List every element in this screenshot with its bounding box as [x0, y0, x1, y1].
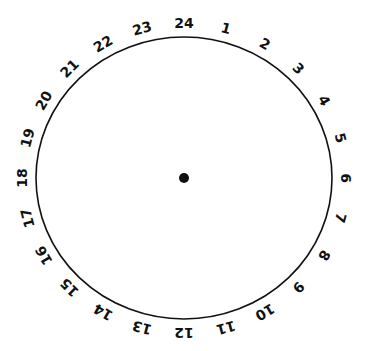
hour-label-14: 14 — [90, 300, 115, 324]
hour-label-19: 19 — [17, 126, 37, 149]
center-dot — [179, 173, 189, 183]
hour-label-18: 18 — [14, 168, 30, 187]
hour-label-9: 9 — [289, 278, 307, 296]
hour-label-3: 3 — [289, 59, 307, 77]
hour-label-15: 15 — [57, 275, 82, 300]
hour-label-2: 2 — [257, 34, 273, 53]
hour-label-5: 5 — [331, 131, 349, 145]
hour-label-23: 23 — [131, 18, 154, 38]
clock-face-diagram: 241234567891011121314151617181920212223 — [0, 0, 367, 351]
hour-label-10: 10 — [252, 300, 277, 324]
hour-label-13: 13 — [131, 317, 154, 337]
hour-label-17: 17 — [17, 207, 37, 230]
hour-label-22: 22 — [91, 32, 116, 56]
hour-label-16: 16 — [32, 243, 56, 268]
hour-label-24: 24 — [174, 15, 194, 31]
hour-label-11: 11 — [214, 317, 237, 337]
hour-label-21: 21 — [57, 56, 82, 81]
hour-label-12: 12 — [174, 325, 193, 341]
hour-label-8: 8 — [315, 247, 334, 263]
hour-label-1: 1 — [219, 19, 233, 37]
hour-label-20: 20 — [32, 88, 56, 113]
hour-label-7: 7 — [331, 211, 349, 225]
hour-label-6: 6 — [338, 173, 354, 183]
hour-label-4: 4 — [315, 92, 334, 109]
